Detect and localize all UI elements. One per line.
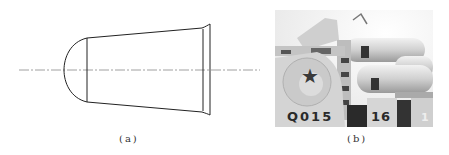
body-top-edge	[87, 28, 202, 38]
panel-b-photo: ★ Q015 16 1	[275, 10, 433, 127]
body-bottom-edge	[87, 102, 202, 112]
hull-number-partial: 1	[421, 112, 429, 123]
flare-top	[202, 24, 210, 28]
caption-a: (a)	[119, 133, 139, 144]
hull-number-16: 16	[371, 110, 391, 123]
hull-number-q015: Q015	[287, 110, 333, 123]
flare-bottom	[202, 112, 210, 115]
caption-b: (b)	[347, 133, 367, 144]
star-emblem: ★	[301, 66, 319, 86]
panel-a-drawing	[19, 24, 260, 115]
